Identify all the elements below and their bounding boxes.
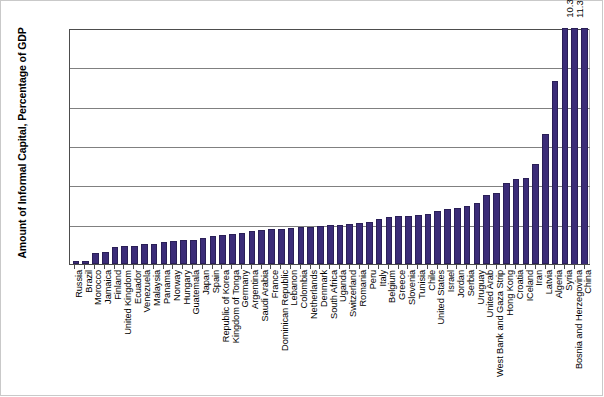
bar-cell <box>228 29 238 264</box>
tick-mark <box>554 265 555 269</box>
bar-cell <box>247 29 257 264</box>
tick-mark <box>339 265 340 269</box>
x-label-cell: Greece <box>393 270 403 390</box>
x-tick <box>511 265 521 269</box>
tick-mark <box>104 265 105 269</box>
bar <box>288 228 295 264</box>
tick-mark <box>270 265 271 269</box>
bar-cell <box>139 29 149 264</box>
tick-mark <box>456 265 457 269</box>
x-axis-category-label: China <box>584 270 593 294</box>
tick-mark <box>417 265 418 269</box>
bar <box>200 238 207 264</box>
x-tick <box>168 265 178 269</box>
bar <box>356 223 363 264</box>
x-tick <box>217 265 227 269</box>
x-tick <box>335 265 345 269</box>
bar <box>571 28 578 264</box>
tick-mark <box>574 265 575 269</box>
x-label-cell: Guatemala <box>188 270 198 390</box>
x-tick <box>139 265 149 269</box>
tick-mark <box>114 265 115 269</box>
x-tick <box>462 265 472 269</box>
bar-cell <box>188 29 198 264</box>
bar <box>102 252 109 264</box>
tick-mark <box>525 265 526 269</box>
bar-cell <box>345 29 355 264</box>
x-tick <box>227 265 237 269</box>
x-label-cell: Romania <box>354 270 364 390</box>
bar <box>190 240 197 264</box>
tick-mark <box>476 265 477 269</box>
bar-cell <box>71 29 81 264</box>
tick-mark <box>486 265 487 269</box>
tick-mark <box>251 265 252 269</box>
bar <box>562 28 569 264</box>
bar <box>73 261 80 264</box>
bar-cell <box>492 29 502 264</box>
x-label-cell: Spain <box>207 270 217 390</box>
bar-cell <box>198 29 208 264</box>
bar-cell <box>316 29 326 264</box>
x-label-cell: Serbia <box>462 270 472 390</box>
bar <box>513 179 520 264</box>
tick-mark <box>319 265 320 269</box>
bar-cell <box>179 29 189 264</box>
x-axis-labels: RussiaBrazilMoroccoJamaicaFinlandUnited … <box>69 270 590 390</box>
bar <box>180 240 187 264</box>
bar <box>346 224 353 264</box>
x-label-cell: Norway <box>168 270 178 390</box>
bar-cell <box>355 29 365 264</box>
bar <box>425 214 432 264</box>
x-label-cell: Dominican Republic <box>276 270 286 390</box>
tick-mark <box>398 265 399 269</box>
x-tick <box>207 265 217 269</box>
tick-mark <box>368 265 369 269</box>
x-label-cell: Russia <box>70 270 80 390</box>
x-axis: RussiaBrazilMoroccoJamaicaFinlandUnited … <box>69 265 590 395</box>
x-tick <box>393 265 403 269</box>
plot-area: 0%1%2%3%4%5%6% 10.311.3 <box>69 29 590 265</box>
x-label-cell: West Bank and Gaza Strip <box>491 270 501 390</box>
x-tick <box>560 265 570 269</box>
bar-cell <box>541 29 551 264</box>
tick-mark <box>388 265 389 269</box>
x-tick <box>364 265 374 269</box>
bar-cell <box>218 29 228 264</box>
x-label-cell: Latvia <box>540 270 550 390</box>
bar-cell <box>531 29 541 264</box>
bar-cell <box>237 29 247 264</box>
bar-cell <box>443 29 453 264</box>
bar-cell <box>100 29 110 264</box>
bar-cell <box>325 29 335 264</box>
x-label-cell: Tunisia <box>413 270 423 390</box>
x-label-cell: Ecuador <box>129 270 139 390</box>
tick-mark <box>290 265 291 269</box>
x-tick <box>178 265 188 269</box>
bar <box>151 244 158 264</box>
bar-cell <box>159 29 169 264</box>
x-label-cell: Slovenia <box>403 270 413 390</box>
bar <box>327 225 334 264</box>
bar-cell <box>413 29 423 264</box>
tick-mark <box>212 265 213 269</box>
x-tick <box>403 265 413 269</box>
x-label-cell: Argentina <box>246 270 256 390</box>
x-tick <box>325 265 335 269</box>
bar <box>474 203 481 264</box>
bar-cell <box>335 29 345 264</box>
tick-mark <box>172 265 173 269</box>
tick-mark <box>310 265 311 269</box>
x-tick <box>344 265 354 269</box>
x-label-cell: United States <box>432 270 442 390</box>
x-label-cell: Iran <box>530 270 540 390</box>
x-label-cell: Uganda <box>335 270 345 390</box>
tick-mark <box>221 265 222 269</box>
bar <box>493 193 500 264</box>
bar <box>229 234 236 264</box>
x-tick <box>521 265 531 269</box>
x-tick <box>491 265 501 269</box>
bar-cell <box>306 29 316 264</box>
bar-cell <box>433 29 443 264</box>
x-label-cell: Kingdom of Tonga <box>227 270 237 390</box>
